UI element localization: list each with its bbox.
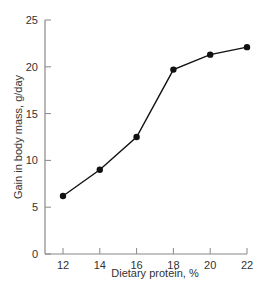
data-point-marker — [244, 44, 250, 50]
data-point-marker — [97, 167, 103, 173]
x-tick-label: 20 — [204, 259, 216, 271]
x-axis-label: Dietary protein, % — [111, 267, 199, 279]
y-tick-label: 20 — [26, 61, 38, 73]
y-tick-label: 10 — [26, 154, 38, 166]
data-point-marker — [207, 51, 213, 57]
data-point-marker — [170, 66, 176, 72]
y-axis-label: Gain in body mass, g/day — [12, 74, 24, 199]
data-point-marker — [133, 134, 139, 140]
data-series — [60, 44, 250, 199]
data-point-marker — [60, 193, 66, 199]
x-tick-label: 14 — [94, 259, 106, 271]
y-tick-label: 5 — [32, 201, 38, 213]
data-line — [63, 47, 247, 196]
line-chart: 0510152025121416182022 Dietary protein, … — [0, 0, 267, 293]
y-tick-label: 0 — [32, 248, 38, 260]
y-tick-label: 15 — [26, 108, 38, 120]
y-tick-label: 25 — [26, 14, 38, 26]
x-tick-label: 12 — [57, 259, 69, 271]
x-tick-label: 22 — [241, 259, 253, 271]
